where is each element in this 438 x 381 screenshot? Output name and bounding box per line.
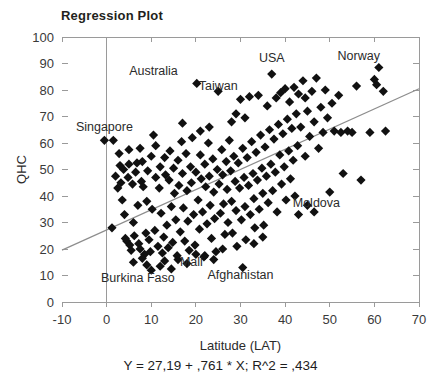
data-point-marker — [210, 214, 219, 223]
x-tick-label: 10 — [144, 312, 158, 327]
data-point-marker — [229, 152, 238, 161]
data-point-marker — [272, 207, 281, 216]
data-point-marker — [277, 179, 286, 188]
data-point-marker — [159, 232, 168, 241]
data-point-marker — [219, 199, 228, 208]
x-tick-label: 20 — [189, 312, 203, 327]
data-point-marker — [244, 181, 253, 190]
data-point-marker — [133, 201, 142, 210]
data-point-marker — [292, 109, 301, 118]
y-tick-label: 100 — [32, 30, 54, 45]
data-point-marker — [131, 168, 140, 177]
data-point-marker — [225, 136, 234, 145]
data-point-marker — [294, 210, 303, 219]
y-tick-label: 60 — [40, 136, 54, 151]
data-point-marker — [265, 125, 274, 134]
data-point-marker — [174, 181, 183, 190]
data-point-marker — [232, 242, 241, 251]
y-tick-label: 40 — [40, 189, 54, 204]
data-point-marker — [178, 119, 187, 128]
data-point-marker — [100, 136, 109, 145]
data-point-marker — [330, 126, 339, 135]
annotation-australia: Australia — [129, 64, 178, 78]
data-point-marker — [259, 221, 268, 230]
data-point-marker — [258, 232, 267, 241]
data-point-marker — [216, 209, 225, 218]
data-point-marker — [237, 215, 246, 224]
data-point-marker — [327, 99, 336, 108]
data-point-marker — [147, 152, 156, 161]
data-point-marker — [241, 235, 250, 244]
y-tick-label: 90 — [40, 56, 54, 71]
data-point-marker — [285, 97, 294, 106]
data-point-marker — [182, 186, 191, 195]
scatter-plot-canvas: 0102030405060708090100 -1001020304050607… — [0, 0, 438, 381]
data-point-marker — [205, 123, 214, 132]
data-point-marker — [252, 148, 261, 157]
data-point-marker — [206, 201, 215, 210]
data-point-marker — [286, 174, 295, 183]
equation-layer: Y = 27,19 + ,761 * X; R^2 = ,434 — [123, 358, 318, 373]
data-point-marker — [223, 218, 232, 227]
annotation-norway: Norway — [338, 49, 381, 63]
data-point-marker — [194, 195, 203, 204]
y-tick-label: 0 — [47, 295, 54, 310]
data-point-marker — [176, 227, 185, 236]
data-point-marker — [298, 76, 307, 85]
data-point-marker — [312, 73, 321, 82]
data-point-marker — [160, 153, 169, 162]
data-point-marker — [135, 144, 144, 153]
data-point-marker — [188, 133, 197, 142]
data-point-marker — [227, 117, 236, 126]
data-point-marker — [310, 117, 319, 126]
data-point-marker — [258, 189, 267, 198]
data-point-marker — [209, 255, 218, 264]
data-point-marker — [263, 101, 272, 110]
data-point-marker — [150, 226, 159, 235]
data-point-marker — [177, 137, 186, 146]
data-point-marker — [231, 177, 240, 186]
data-point-marker — [262, 172, 271, 181]
annotation-mali: Mali — [180, 255, 203, 269]
data-point-marker — [120, 210, 129, 219]
data-point-marker — [190, 240, 199, 249]
data-point-marker — [381, 126, 390, 135]
data-point-marker — [275, 150, 284, 159]
data-point-marker — [239, 173, 248, 182]
data-point-marker — [181, 149, 190, 158]
data-point-marker — [156, 162, 165, 171]
data-point-marker — [256, 130, 265, 139]
x-tick-label: 0 — [103, 312, 110, 327]
data-point-marker — [148, 205, 157, 214]
data-point-marker — [217, 145, 226, 154]
x-tick-label: 70 — [412, 312, 426, 327]
data-point-marker — [303, 107, 312, 116]
annotation-burkina-faso: Burkina Faso — [101, 271, 175, 285]
annotation-taiwan: Taiwan — [199, 79, 238, 93]
data-point-marker — [128, 179, 137, 188]
data-point-marker — [318, 128, 327, 137]
data-point-marker — [205, 172, 214, 181]
data-point-marker — [334, 91, 343, 100]
data-point-marker — [156, 209, 165, 218]
data-point-marker — [365, 128, 374, 137]
data-point-marker — [173, 156, 182, 165]
data-point-marker — [249, 239, 258, 248]
data-point-marker — [200, 160, 209, 169]
data-point-marker — [253, 176, 262, 185]
data-point-marker — [321, 85, 330, 94]
data-point-marker — [115, 149, 124, 158]
data-point-marker — [284, 146, 293, 155]
data-point-marker — [169, 164, 178, 173]
data-point-marker — [124, 145, 133, 154]
data-point-marker — [153, 242, 162, 251]
data-point-marker — [243, 153, 252, 162]
data-point-marker — [283, 115, 292, 124]
data-point-marker — [289, 156, 298, 165]
data-point-marker — [179, 203, 188, 212]
data-point-marker — [209, 187, 218, 196]
regression-line-layer — [62, 89, 419, 250]
data-point-marker — [248, 169, 257, 178]
data-point-marker — [267, 70, 276, 79]
data-point-marker — [301, 152, 310, 161]
